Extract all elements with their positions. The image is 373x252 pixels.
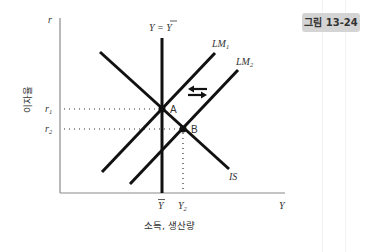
vertical-line-label: Y = Y	[149, 22, 173, 33]
lm2-label: LM2	[235, 56, 254, 68]
point-b-marker	[180, 126, 187, 133]
is-label: IS	[228, 171, 237, 182]
r2-tick-label: r2	[45, 123, 53, 135]
point-a-label: A	[170, 104, 177, 115]
curves	[100, 38, 238, 193]
r1-tick-label: r1	[45, 103, 52, 115]
point-a-marker	[159, 106, 166, 113]
y-axis-title: 이자율	[22, 86, 33, 113]
lm1-label: LM1	[211, 38, 229, 50]
is-lm-diagram: r Y r1 r2 Y Y2 Y = Y LM1 LM2 IS A B 소득, …	[0, 0, 373, 252]
x-axis-title: 소득, 생산량	[144, 220, 195, 231]
ybar-tick-label: Y	[158, 200, 165, 211]
double-arrow-icon	[188, 86, 207, 99]
x-axis-symbol: Y	[279, 200, 286, 211]
y-axis-symbol: r	[48, 14, 52, 25]
y2-tick-label: Y2	[178, 200, 188, 212]
point-b-label: B	[191, 124, 198, 135]
